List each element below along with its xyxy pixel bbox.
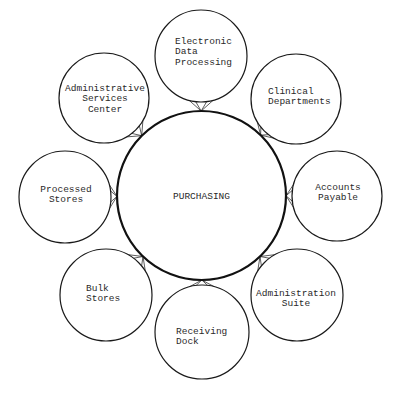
node-label-line: Payable bbox=[318, 192, 358, 203]
node-label-line: Services bbox=[82, 93, 128, 104]
node-label-line: Center bbox=[88, 104, 122, 115]
node-label-line: Suite bbox=[282, 298, 311, 309]
node-label-line: Administration bbox=[256, 288, 336, 299]
node-label-line: Receiving bbox=[176, 326, 227, 337]
node-label-line: Electronic bbox=[175, 36, 232, 47]
node-label-line: Administrative bbox=[65, 83, 145, 94]
purchasing-diagram: ElectronicDataProcessingClinicalDepartme… bbox=[0, 0, 398, 402]
node-processed: ProcessedStores bbox=[19, 151, 111, 243]
node-label-accounts: AccountsPayable bbox=[315, 182, 361, 204]
node-label-line: Accounts bbox=[315, 182, 361, 193]
node-admin-suite: AdministrationSuite bbox=[251, 249, 343, 341]
node-clinical: ClinicalDepartments bbox=[251, 54, 341, 144]
node-receiving: ReceivingDock bbox=[155, 285, 249, 379]
node-label-line: Processed bbox=[40, 184, 91, 195]
node-label-line: Clinical bbox=[268, 86, 314, 97]
node-accounts: AccountsPayable bbox=[292, 151, 382, 241]
node-label-line: Data bbox=[175, 46, 198, 57]
node-label-line: Departments bbox=[268, 96, 331, 107]
node-bulk: BulkStores bbox=[60, 249, 152, 341]
node-label-line: Stores bbox=[86, 293, 120, 304]
center-node: PURCHASING bbox=[117, 111, 286, 280]
node-label-line: Processing bbox=[175, 57, 232, 68]
node-asc: AdministrativeServicesCenter bbox=[59, 53, 149, 143]
node-label-line: Dock bbox=[176, 336, 199, 347]
node-label-line: Bulk bbox=[86, 283, 109, 294]
node-edp: ElectronicDataProcessing bbox=[155, 10, 247, 102]
node-label-line: Stores bbox=[49, 194, 83, 205]
center-label: PURCHASING bbox=[173, 191, 230, 202]
